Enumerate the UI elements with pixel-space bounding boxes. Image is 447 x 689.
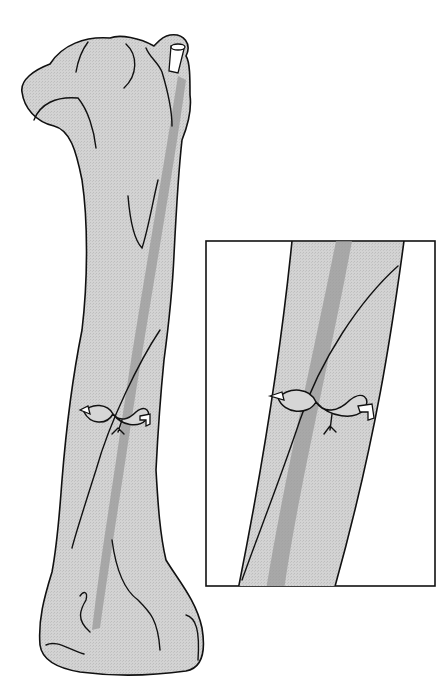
pin-cap (171, 44, 185, 50)
main-bone (22, 35, 204, 675)
bone-illustration (0, 0, 447, 689)
inset-panel (206, 241, 435, 590)
